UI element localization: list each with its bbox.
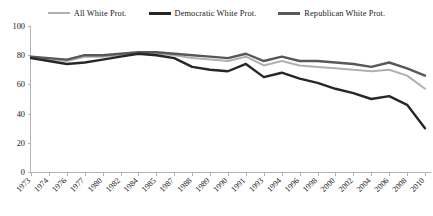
x-tick-label: 2004: [355, 176, 373, 194]
x-tick-label: 1989: [194, 176, 212, 194]
y-axis-tick-labels: 100806040200: [12, 22, 25, 177]
x-tick-label: 2008: [391, 176, 409, 194]
chart-figure: All White Prot. Democratic White Prot. R…: [0, 0, 433, 216]
y-tick-label: 20: [17, 139, 25, 148]
plot-area: 100806040200 197319741976197719801982198…: [0, 0, 433, 216]
x-tick-label: 1987: [158, 176, 176, 194]
y-tick-label: 40: [17, 110, 25, 119]
x-tick-label: 1990: [211, 176, 229, 194]
x-tick-label: 1976: [50, 176, 68, 194]
x-tick-label: 2002: [337, 176, 355, 194]
x-tick-label: 1977: [68, 176, 86, 194]
x-tick-label: 1991: [229, 176, 247, 194]
x-tick-label: 1974: [32, 176, 50, 194]
x-tick-label: 1985: [140, 176, 158, 194]
x-tick-label: 1988: [176, 176, 194, 194]
x-tick-label: 1973: [14, 176, 32, 194]
x-tick-label: 2000: [319, 176, 337, 194]
x-tick-label: 1984: [122, 176, 140, 194]
y-tick-label: 60: [17, 80, 25, 89]
x-tick-label: 1994: [265, 176, 283, 194]
x-tick-label: 1982: [104, 176, 122, 194]
x-tick-label: 1980: [86, 176, 104, 194]
x-tick-label: 1998: [301, 176, 319, 194]
series-lines: [31, 52, 425, 128]
x-tick-label: 2006: [373, 176, 391, 194]
x-axis-tick-labels: 1973197419761977198019821984198519871988…: [14, 176, 426, 194]
x-tick-label: 2010: [408, 176, 426, 194]
y-tick-label: 80: [17, 51, 25, 60]
x-tick-label: 1993: [247, 176, 265, 194]
x-axis-tick-marks: [32, 173, 426, 177]
y-tick-label: 100: [12, 22, 25, 31]
y-tick-label: 0: [21, 168, 25, 177]
x-tick-label: 1996: [283, 176, 301, 194]
line-chart-svg: 100806040200 197319741976197719801982198…: [0, 0, 433, 216]
